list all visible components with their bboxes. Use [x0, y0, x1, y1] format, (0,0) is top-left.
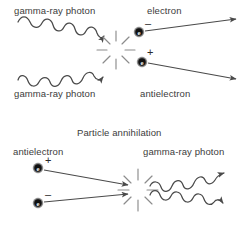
svg-text:e: e: [36, 201, 39, 207]
electron-trajectory-arrow-bottom: [44, 194, 128, 202]
charge-sign-antielectron-bottom: +: [45, 155, 51, 166]
label-gamma-ray-photon-upper: gamma-ray photon: [14, 5, 95, 16]
charge-sign-electron-top: –: [145, 18, 151, 29]
electron-particle-bottom: e: [33, 198, 44, 209]
label-antielectron-top: antielectron: [140, 88, 190, 99]
section-title-particle-annihilation: Particle annihilation: [77, 127, 161, 138]
antielectron-trajectory-arrow-bottom: [44, 170, 128, 185]
svg-text:e: e: [140, 60, 143, 66]
antielectron-particle-bottom: e: [33, 163, 44, 174]
collision-starburst-bottom: [118, 169, 158, 211]
electron-particle-top: e: [134, 27, 145, 38]
outgoing-photon-lower-wave: [150, 191, 223, 205]
outgoing-photon-upper-wave: [150, 173, 224, 191]
antielectron-particle-top: e: [137, 57, 148, 68]
electron-trajectory-arrow-top: [145, 19, 236, 31]
charge-sign-electron-bottom: –: [45, 189, 51, 200]
physics-diagram: e e e e: [0, 0, 247, 226]
collision-starburst-top: [97, 31, 135, 69]
diagram-canvas: e e e e: [0, 0, 247, 226]
svg-text:e: e: [36, 166, 39, 172]
incoming-photon-lower-wave: [18, 72, 103, 86]
label-gamma-ray-photon-outgoing: gamma-ray photon: [143, 146, 224, 157]
charge-sign-antielectron-top: +: [147, 47, 153, 58]
label-electron: electron: [147, 5, 182, 16]
svg-text:e: e: [137, 30, 140, 36]
label-antielectron-bottom: antielectron: [13, 146, 63, 157]
label-gamma-ray-photon-lower: gamma-ray photon: [14, 88, 95, 99]
incoming-photon-upper-wave: [18, 17, 104, 38]
antielectron-trajectory-arrow-top: [148, 63, 236, 79]
